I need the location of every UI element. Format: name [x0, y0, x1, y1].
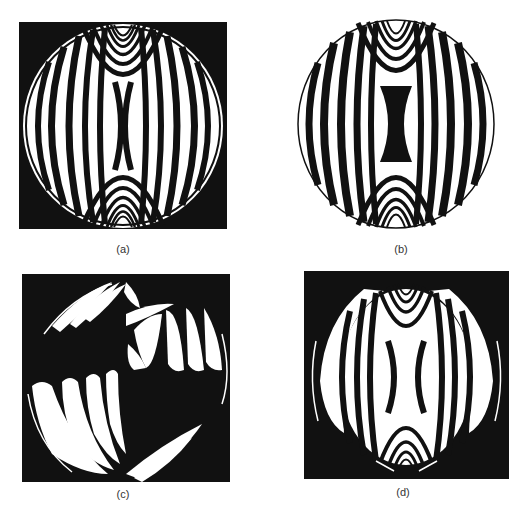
- fringe-pattern-a: [19, 22, 227, 229]
- panel-label-c: (c): [103, 488, 143, 500]
- panel-label-d: (d): [383, 486, 423, 498]
- panel-label-a: (a): [103, 243, 143, 255]
- fringe-pattern-d: [304, 271, 509, 479]
- figure-caption: [40, 510, 500, 522]
- figure-panel-d: [304, 271, 509, 479]
- panel-label-b: (b): [381, 243, 421, 255]
- fringe-pattern-b: [296, 18, 496, 230]
- figure-panel-c: [22, 274, 230, 482]
- figure-panel-a: [19, 22, 227, 229]
- fringe-pattern-c: [22, 274, 230, 482]
- figure-panel-b: [296, 18, 496, 230]
